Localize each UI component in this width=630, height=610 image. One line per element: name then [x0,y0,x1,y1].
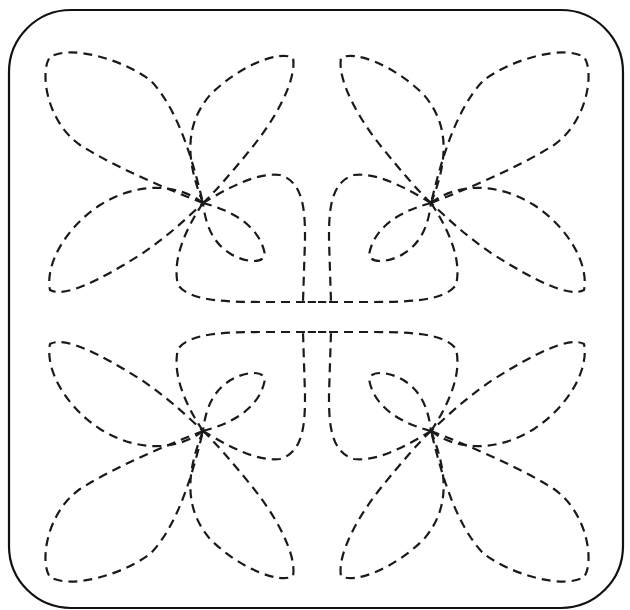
flower-bottom-left [45,332,316,582]
flower-top-right [318,52,589,302]
flower-top-left [45,52,316,302]
flower-bottom-right [318,332,589,582]
block-frame [9,10,623,608]
